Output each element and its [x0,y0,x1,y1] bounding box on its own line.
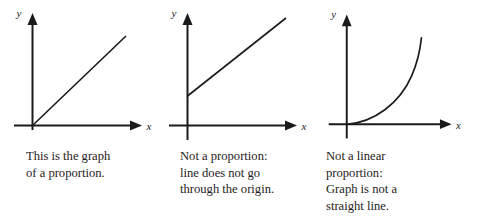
panel-not-a-linear-proportion: y x Not a linear proportion: Graph is no… [317,0,477,224]
caption-line: Not a linear [326,148,466,165]
graph-proportion: y x [0,0,160,146]
caption-line: line does not go [180,165,315,182]
three-graph-comparison-figure: y x This is the graph of a proportion. y… [0,0,481,224]
y-axis [28,13,38,130]
caption-line: Not a proportion: [180,148,315,165]
y-axis [342,14,352,138]
panel-not-a-proportion: y x Not a proportion: line does not go t… [155,0,315,224]
x-axis-label: x [455,119,461,131]
caption-line: This is the graph [26,148,158,165]
x-axis-label: x [146,120,152,132]
data-line-through-origin [33,36,127,126]
y-axis [183,13,193,140]
graph-not-a-proportion: y x [155,0,315,146]
data-line-offset-intercept [188,18,287,96]
caption-not-a-linear-proportion: Not a linear proportion: Graph is not a … [326,148,466,214]
caption-proportion: This is the graph of a proportion. [26,148,158,181]
y-axis-label: y [171,7,177,19]
caption-line: through the origin. [180,181,315,198]
caption-line: straight line. [326,198,466,215]
caption-line: proportion: [326,165,466,182]
caption-line: of a proportion. [26,165,158,182]
caption-line: Graph is not a [326,181,466,198]
graph-not-a-linear-proportion: y x [317,0,477,146]
y-axis-label: y [16,7,22,19]
data-curve-exponential [347,38,422,124]
panel-proportion: y x This is the graph of a proportion. [0,0,160,224]
x-axis-label: x [301,120,307,132]
caption-not-a-proportion: Not a proportion: line does not go throu… [180,148,315,198]
y-axis-label: y [330,8,336,20]
